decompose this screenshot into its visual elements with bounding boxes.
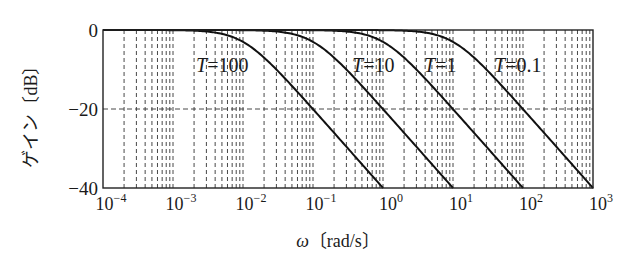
x-axis-ticks: 10−410−310−210−1100101102103 xyxy=(96,191,613,214)
y-axis-ticks: 0−20−40 xyxy=(68,20,98,199)
y-tick-label: −20 xyxy=(68,99,98,120)
y-tick-label: 0 xyxy=(89,20,99,41)
x-tick-label: 103 xyxy=(589,191,613,214)
x-axis-unit: 〔rad/s〕 xyxy=(309,231,380,251)
x-tick-label: 100 xyxy=(379,191,403,214)
series-label-T=1: T=1 xyxy=(424,54,456,76)
series-label-T=100: T=100 xyxy=(196,54,248,76)
x-tick-label: 10−4 xyxy=(96,191,127,214)
x-tick-label: 102 xyxy=(519,191,543,214)
x-tick-label: 10−2 xyxy=(236,191,267,214)
x-tick-label: 10−1 xyxy=(306,191,337,214)
y-tick-label: −40 xyxy=(68,178,98,199)
omega-symbol: ω xyxy=(296,231,309,251)
series-label-T=0.1: T=0.1 xyxy=(494,54,541,76)
x-tick-label: 101 xyxy=(449,191,473,214)
x-tick-label: 10−3 xyxy=(166,191,197,214)
x-axis-title: ω〔rad/s〕 xyxy=(0,226,636,252)
bode-gain-chart: 0−20−40 10−410−310−210−1100101102103 T=1… xyxy=(0,0,636,264)
y-axis-title: ゲイン〔dB〕 xyxy=(14,52,44,172)
series-label-T=10: T=10 xyxy=(352,54,394,76)
